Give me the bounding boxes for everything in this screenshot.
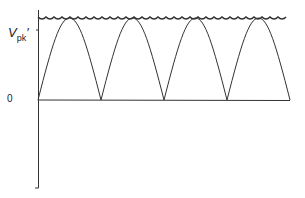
ripple-output-line — [38, 17, 286, 19]
rectified-waveform — [38, 18, 290, 100]
rectifier-waveform-diagram — [0, 0, 305, 198]
